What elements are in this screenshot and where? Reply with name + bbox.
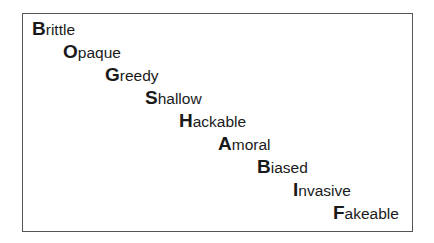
word-rest: reedy (120, 67, 159, 84)
word-opaque: Opaque (63, 43, 121, 62)
word-rest: hallow (158, 90, 202, 107)
word-initial: A (218, 133, 232, 154)
word-initial: H (179, 110, 193, 131)
word-fakeable: Fakeable (333, 204, 399, 223)
word-initial: B (257, 156, 271, 177)
diagram-frame: Brittle Opaque Greedy Shallow Hackable A… (22, 13, 413, 232)
word-initial: S (145, 87, 158, 108)
word-rest: ackable (193, 113, 246, 130)
word-rest: rittle (46, 21, 75, 38)
word-rest: moral (232, 136, 271, 153)
word-rest: iased (271, 159, 308, 176)
word-initial: B (32, 18, 46, 39)
word-greedy: Greedy (105, 66, 159, 85)
word-amoral: Amoral (218, 135, 271, 154)
word-initial: G (105, 64, 120, 85)
word-invasive: Invasive (293, 181, 351, 200)
word-initial: O (63, 41, 78, 62)
word-rest: akeable (345, 205, 399, 222)
word-rest: nvasive (298, 182, 351, 199)
word-initial: F (333, 202, 345, 223)
word-hackable: Hackable (179, 112, 246, 131)
word-rest: paque (78, 44, 121, 61)
word-biased: Biased (257, 158, 308, 177)
word-brittle: Brittle (32, 20, 75, 39)
word-shallow: Shallow (145, 89, 202, 108)
